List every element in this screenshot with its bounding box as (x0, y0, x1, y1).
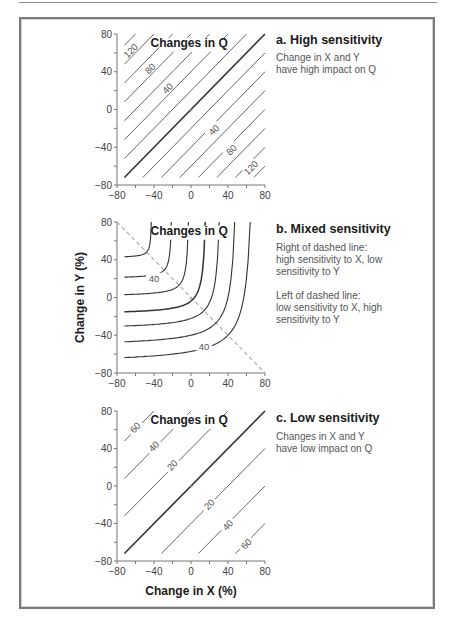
y-tick-label: 0 (106, 292, 112, 303)
contour-label: 120 (121, 41, 140, 60)
panel-b-description: Right of dashed line: high sensitivity t… (276, 242, 426, 326)
y-tick-label: −40 (95, 518, 112, 529)
y-tick-label: 80 (101, 406, 113, 417)
origin-marker: + (189, 482, 194, 491)
x-tick-label: −80 (109, 190, 126, 201)
panel-b-plot: 80400−40−80−80−40040804040+Changes in QC… (73, 217, 271, 390)
x-tick-label: 40 (222, 190, 234, 201)
x-tick-label: 40 (222, 566, 234, 577)
y-tick-label: −80 (95, 180, 112, 191)
y-tick-label: −80 (95, 556, 112, 567)
y-tick-label: 80 (101, 29, 113, 40)
y-tick-label: 40 (101, 443, 113, 454)
contour-label-text: 120 (121, 41, 140, 60)
y-tick-label: 40 (101, 66, 113, 77)
panel-c-description: Changes in X and Y have low impact on Q (276, 431, 426, 455)
y-tick-label: 40 (101, 254, 113, 265)
inner-title: Changes in Q (150, 36, 227, 50)
x-tick-label: 40 (222, 378, 234, 389)
contour-line (143, 53, 265, 178)
inner-title: Changes in Q (150, 224, 227, 238)
contour-line (124, 411, 265, 554)
x-axis-title: Change in X (%) (145, 584, 236, 598)
contour-curve (124, 222, 151, 257)
x-tick-label: 0 (188, 190, 194, 201)
contour-label: 20 (163, 455, 182, 474)
x-tick-label: 0 (188, 378, 194, 389)
x-tick-label: 0 (188, 566, 194, 577)
panel-c-title: c. Low sensitivity (276, 411, 380, 425)
contour-label: 60 (237, 534, 256, 553)
x-tick-label: −40 (146, 566, 163, 577)
x-tick-label: 80 (259, 378, 271, 389)
y-tick-label: −40 (95, 142, 112, 153)
contour-label: 80 (140, 59, 159, 78)
y-axis-title: Change in Y (%) (73, 252, 87, 343)
panel-c-plot: 80400−40−80−80−4004080604020204060+Chang… (95, 406, 271, 599)
x-tick-label: 80 (259, 190, 271, 201)
contour-label: 60 (126, 418, 145, 437)
x-tick-label: −40 (146, 378, 163, 389)
panel-a-plot: 80400−40−80−80−400408012080404080120+Cha… (95, 29, 271, 202)
y-tick-label: −80 (95, 368, 112, 379)
contour-label: 40 (144, 437, 163, 456)
contour-label: 40 (218, 515, 237, 534)
contour-label-text: 40 (149, 273, 160, 284)
contour-line (124, 34, 265, 177)
y-tick-label: −40 (95, 330, 112, 341)
x-tick-label: −80 (109, 566, 126, 577)
y-tick-label: 0 (106, 104, 112, 115)
panel-b-title: b. Mixed sensitivity (276, 222, 391, 236)
panel-a-title: a. High sensitivity (276, 33, 382, 47)
contour-line (124, 34, 246, 159)
origin-marker: + (189, 106, 194, 115)
y-tick-label: 0 (106, 481, 112, 492)
contour-label: 40 (158, 79, 177, 98)
x-tick-label: −80 (109, 378, 126, 389)
origin-marker: + (189, 294, 194, 303)
x-tick-label: 80 (259, 566, 271, 577)
contour-label-text: 40 (199, 341, 210, 352)
inner-title: Changes in Q (150, 413, 227, 427)
panel-a-description: Change in X and Y have high impact on Q (276, 52, 426, 76)
y-tick-label: 80 (101, 217, 113, 228)
contour-label: 40 (146, 273, 162, 284)
contour-label: 40 (196, 341, 212, 352)
x-tick-label: −40 (146, 190, 163, 201)
